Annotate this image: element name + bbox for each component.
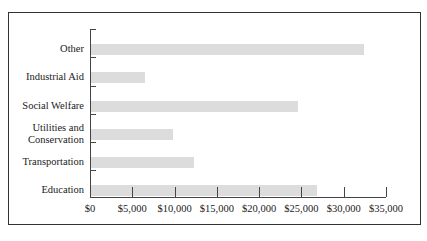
category-label: Social Welfare [22,100,84,112]
x-tick [132,187,133,197]
category-label: Utilities andConservation [28,122,84,146]
x-tick-label: $5,000 [118,203,147,214]
category-label: Transportation [23,156,84,168]
category-label: Industrial Aid [26,71,84,83]
x-tick-label: $0 [85,203,96,214]
bar-industrial-aid [91,72,145,83]
category-label: Other [60,43,84,55]
x-tick [344,187,345,197]
x-tick [301,187,302,197]
x-tick-label: $20,000 [242,203,276,214]
x-tick-label: $25,000 [284,203,318,214]
bar-utilities-and-conservation [91,129,173,140]
x-tick [259,187,260,197]
x-tick-label: $10,000 [158,203,192,214]
x-axis [90,197,386,198]
x-tick [175,187,176,197]
bar-other [91,44,364,55]
bar-education [91,185,317,196]
x-tick-label: $35,000 [369,203,403,214]
y-tick [90,29,96,30]
bar-social-welfare [91,101,298,112]
x-tick-label: $15,000 [200,203,234,214]
bar-chart: OtherIndustrial AidSocial WelfareUtiliti… [0,0,427,241]
x-tick [386,187,387,197]
y-tick [90,86,96,87]
y-tick [90,57,96,58]
y-tick [90,114,96,115]
x-tick [217,187,218,197]
category-label: Education [41,184,84,196]
x-tick-label: $30,000 [327,203,361,214]
y-tick [90,170,96,171]
y-tick [90,142,96,143]
bar-transportation [91,157,194,168]
